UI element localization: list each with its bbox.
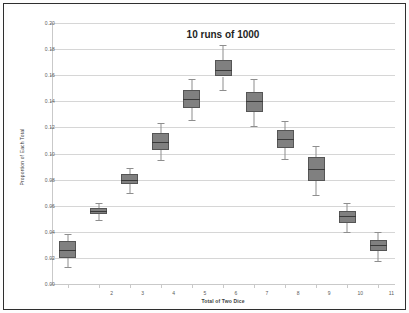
box-iqr xyxy=(215,60,232,77)
gridline xyxy=(53,23,395,24)
lower-whisker xyxy=(347,223,348,232)
upper-whisker xyxy=(316,146,317,158)
x-tick-label: 6 xyxy=(235,290,238,296)
upper-whisker xyxy=(378,232,379,240)
median-line xyxy=(246,101,263,102)
lower-whisker-cap xyxy=(375,261,382,262)
median-line xyxy=(183,99,200,100)
upper-whisker xyxy=(347,203,348,211)
y-tick-label: 0.18 xyxy=(45,46,55,52)
lower-whisker xyxy=(378,251,379,260)
x-tick-mark xyxy=(285,285,286,288)
median-line xyxy=(90,211,107,212)
x-tick-label: 5 xyxy=(203,290,206,296)
x-tick-mark xyxy=(130,285,131,288)
lower-whisker xyxy=(129,184,130,193)
gridline xyxy=(53,180,395,181)
x-tick-mark xyxy=(223,285,224,288)
upper-whisker-cap xyxy=(344,203,351,204)
x-axis-label: Total of Two Dice xyxy=(201,298,244,304)
x-axis-line: 23456789101112 xyxy=(52,284,394,285)
y-tick-label: 0.04 xyxy=(45,229,55,235)
lower-whisker xyxy=(223,77,224,90)
gridline xyxy=(53,258,395,259)
x-tick-label: 7 xyxy=(266,290,269,296)
lower-whisker-cap xyxy=(313,195,320,196)
lower-whisker xyxy=(160,150,161,160)
lower-whisker-cap xyxy=(344,232,351,233)
x-tick-label: 2 xyxy=(110,290,113,296)
chart-canvas: 10 runs of 1000 Proportion of Each Total… xyxy=(8,7,402,306)
x-tick-mark xyxy=(161,285,162,288)
lower-whisker xyxy=(316,181,317,195)
lower-whisker-cap xyxy=(188,120,195,121)
upper-whisker-cap xyxy=(157,123,164,124)
x-tick-mark xyxy=(192,285,193,288)
median-line xyxy=(339,216,356,217)
chart-image-frame: 10 runs of 1000 Proportion of Each Total… xyxy=(0,0,409,313)
x-tick-mark xyxy=(254,285,255,288)
y-tick-label: 0.10 xyxy=(45,151,55,157)
upper-whisker-cap xyxy=(64,234,71,235)
x-tick-label: 4 xyxy=(172,290,175,296)
y-tick-label: 0.12 xyxy=(45,124,55,130)
lower-whisker-cap xyxy=(95,220,102,221)
median-line xyxy=(152,142,169,143)
y-tick-label: 0.14 xyxy=(45,98,55,104)
x-tick-label: 8 xyxy=(297,290,300,296)
gridline xyxy=(53,127,395,128)
lower-whisker xyxy=(67,258,68,267)
lower-whisker-cap xyxy=(126,193,133,194)
median-line xyxy=(215,70,232,71)
upper-whisker xyxy=(223,45,224,59)
x-tick-mark xyxy=(378,285,379,288)
x-tick-mark xyxy=(347,285,348,288)
upper-whisker-cap xyxy=(126,168,133,169)
lower-whisker xyxy=(191,108,192,120)
upper-whisker-cap xyxy=(282,121,289,122)
lower-whisker-cap xyxy=(282,159,289,160)
upper-whisker xyxy=(191,79,192,89)
upper-whisker-cap xyxy=(220,45,227,46)
y-tick-label: 0.16 xyxy=(45,72,55,78)
upper-whisker-cap xyxy=(375,232,382,233)
y-tick-label: 0.00 xyxy=(45,281,55,287)
upper-whisker xyxy=(254,79,255,92)
x-tick-label: 10 xyxy=(357,290,363,296)
y-tick-label: 0.02 xyxy=(45,255,55,261)
median-line xyxy=(370,245,387,246)
y-tick-label: 0.06 xyxy=(45,203,55,209)
x-tick-label: 11 xyxy=(389,290,394,296)
gridline xyxy=(53,101,395,102)
y-axis-label: Proportion of Each Total xyxy=(19,129,25,186)
x-tick-label: 9 xyxy=(328,290,331,296)
upper-whisker-cap xyxy=(251,79,258,80)
lower-whisker xyxy=(285,148,286,158)
y-tick-label: 0.08 xyxy=(45,177,55,183)
y-tick-label: 0.20 xyxy=(45,20,55,26)
upper-whisker xyxy=(160,123,161,132)
x-tick-label: 3 xyxy=(141,290,144,296)
median-line xyxy=(308,169,325,170)
lower-whisker xyxy=(254,112,255,126)
gridline xyxy=(53,49,395,50)
median-line xyxy=(59,250,76,251)
upper-whisker-cap xyxy=(313,146,320,147)
x-tick-mark xyxy=(316,285,317,288)
upper-whisker xyxy=(285,121,286,130)
lower-whisker xyxy=(98,214,99,221)
upper-whisker-cap xyxy=(188,79,195,80)
upper-whisker-cap xyxy=(95,203,102,204)
x-tick-mark xyxy=(99,285,100,288)
lower-whisker-cap xyxy=(64,267,71,268)
lower-whisker-cap xyxy=(220,90,227,91)
lower-whisker-cap xyxy=(157,160,164,161)
median-line xyxy=(121,180,138,181)
median-line xyxy=(277,139,294,140)
gridline xyxy=(53,206,395,207)
lower-whisker-cap xyxy=(251,126,258,127)
x-tick-mark xyxy=(68,285,69,288)
gridline xyxy=(53,154,395,155)
